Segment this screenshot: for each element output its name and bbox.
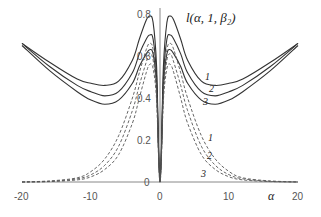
x-tick-label: 0 bbox=[157, 191, 163, 202]
x-tick-label: 10 bbox=[223, 191, 235, 202]
y-tick-label: 0.8 bbox=[137, 9, 151, 20]
dashed-curve-3-label: 3 bbox=[200, 168, 206, 179]
x-tick-label: -20 bbox=[14, 191, 29, 202]
x-axis-label: α bbox=[268, 189, 275, 203]
y-tick-label: 0.2 bbox=[137, 135, 151, 146]
x-tick-label: -10 bbox=[83, 191, 98, 202]
solid-curve-1-label: 1 bbox=[205, 71, 210, 82]
dashed-curve-2-label: 2 bbox=[207, 150, 212, 161]
chart-svg: 0.8 0.6 0.4 0.2 0 -20 -10 0 10 20 α l(α,… bbox=[0, 0, 321, 217]
y-tick-label: 0 bbox=[144, 177, 150, 188]
dashed-curve-1-label: 1 bbox=[208, 132, 213, 143]
chart-title: l(α, 1, β₂) bbox=[186, 10, 236, 25]
y-tick-label: 0.6 bbox=[137, 51, 151, 62]
solid-curve-3-label: 3 bbox=[202, 96, 208, 107]
chart-container: 0.8 0.6 0.4 0.2 0 -20 -10 0 10 20 α l(α,… bbox=[0, 0, 321, 217]
x-tick-label: 20 bbox=[292, 191, 304, 202]
solid-curve-2-label: 2 bbox=[209, 83, 214, 94]
y-tick-label: 0.4 bbox=[137, 93, 151, 104]
